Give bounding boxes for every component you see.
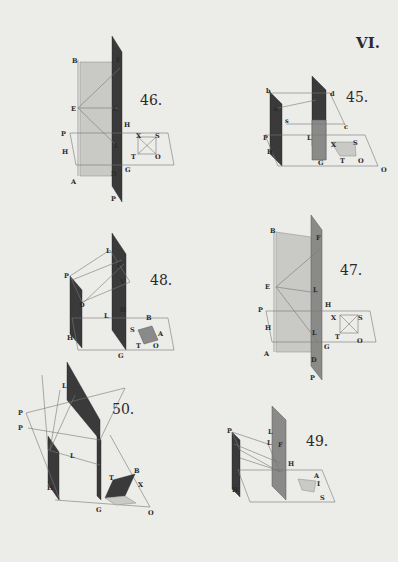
shadow-figure — [298, 479, 316, 492]
label: P — [258, 306, 263, 314]
label: B — [270, 227, 276, 235]
label: O — [358, 157, 364, 165]
label: A — [263, 350, 270, 358]
label: L — [268, 428, 273, 436]
figure-number: 46. — [140, 92, 162, 108]
label: S — [130, 326, 135, 334]
label: H — [288, 460, 294, 468]
vertical-post — [97, 435, 101, 500]
label: G — [318, 159, 324, 167]
label: L — [307, 134, 312, 142]
vertical-plane-right-lower — [312, 120, 326, 160]
label: O — [381, 166, 387, 174]
ground-line — [55, 500, 150, 507]
label: T — [136, 342, 141, 350]
label: E — [71, 105, 76, 113]
label: T — [335, 333, 340, 341]
label: H — [47, 484, 53, 492]
line-n — [278, 100, 316, 108]
label: s — [285, 117, 289, 125]
plate-number: VI. — [355, 34, 380, 52]
label: V — [119, 278, 126, 286]
figure-number: 45. — [346, 89, 368, 105]
figure-47: 47. B F E L H P X S H L T O G A D P — [258, 215, 376, 382]
vertical-plane-right — [272, 406, 286, 500]
label: O — [155, 153, 161, 161]
ray — [50, 395, 75, 450]
label: X — [331, 314, 337, 322]
figure-number: 50. — [112, 401, 134, 417]
label: L — [312, 329, 317, 337]
label: P — [263, 134, 268, 142]
engraved-plate: VI. 46. B F E C H P H L D G A P X S T O — [0, 0, 398, 562]
label: G — [118, 352, 124, 360]
label: D — [79, 301, 85, 309]
label: P — [64, 272, 69, 280]
label: d — [330, 90, 335, 98]
label: L — [267, 439, 272, 447]
label: G — [324, 343, 330, 351]
label: I — [317, 480, 320, 488]
label: b — [266, 87, 271, 95]
label: H — [265, 324, 271, 332]
label: F — [278, 441, 283, 449]
label: G — [96, 506, 102, 514]
label: F — [116, 56, 121, 64]
label: T — [131, 153, 136, 161]
figure-45: 45. b d n s c P L H G X S T O O — [263, 76, 387, 174]
label: B — [134, 467, 140, 475]
label: T — [109, 474, 114, 482]
geometry-diagrams: VI. 46. B F E C H P H L D G A P X S T O — [0, 0, 398, 562]
label: H — [325, 301, 331, 309]
figure-46: 46. B F E C H P H L D G A P X S T O — [61, 36, 174, 203]
label: P — [18, 424, 23, 432]
label: S — [320, 494, 325, 502]
label: S — [358, 314, 363, 322]
shadow-square-light — [105, 496, 136, 505]
label: L — [62, 382, 67, 390]
label: L — [104, 312, 109, 320]
label: G — [125, 166, 131, 174]
label: O — [148, 509, 154, 517]
figure-50: 50. L P P L B T X H G O — [18, 362, 154, 517]
line-p2 — [28, 428, 100, 440]
label: P — [61, 130, 66, 138]
label: T — [340, 157, 345, 165]
label: P — [18, 409, 23, 417]
label: A — [70, 178, 77, 186]
label: H — [124, 121, 130, 129]
label: D — [111, 170, 117, 178]
label: L — [106, 247, 111, 255]
label: F — [117, 261, 122, 269]
label: O — [153, 342, 159, 350]
label: P — [227, 427, 232, 435]
label: P — [310, 374, 315, 382]
label: O — [357, 337, 363, 345]
label: H — [120, 306, 126, 314]
label: S — [353, 139, 358, 147]
label: D — [311, 356, 317, 364]
label: B — [146, 314, 152, 322]
label: L — [313, 286, 318, 294]
ray — [42, 375, 48, 450]
label: F — [316, 234, 321, 242]
label: n — [273, 105, 278, 113]
label: H — [62, 148, 68, 156]
label: c — [344, 123, 348, 131]
figure-number: 47. — [340, 262, 362, 278]
label: B — [72, 57, 78, 65]
label: L — [114, 142, 119, 150]
label: A — [313, 472, 320, 480]
vertical-plane-right — [112, 233, 126, 350]
figure-number: 48. — [150, 272, 172, 288]
label: E — [265, 283, 270, 291]
label: P — [111, 195, 116, 203]
figure-49: 49. P L L F H H A I S — [227, 406, 335, 502]
label: H — [267, 148, 273, 156]
label: H — [67, 334, 73, 342]
ray — [50, 390, 60, 450]
figure-number: 49. — [306, 433, 328, 449]
figure-48: 48. L P F V D L H B S A H T O G — [64, 233, 174, 360]
label: L — [70, 452, 75, 460]
label: S — [155, 132, 160, 140]
